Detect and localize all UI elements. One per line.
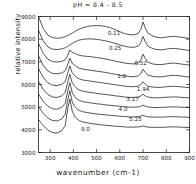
curve-label: 0.52	[134, 60, 146, 66]
curve-label: 5.25	[129, 116, 142, 122]
y-tick-label: 6000	[21, 82, 36, 88]
x-tick-label: 800	[161, 155, 172, 161]
y-tick-label: 5000	[21, 104, 36, 110]
spectrum-curve	[39, 56, 190, 77]
curve-label: 0.25	[109, 45, 122, 51]
spectrum-curve	[39, 74, 190, 98]
y-tick-label: 8000	[21, 36, 36, 42]
curve-label: 3.17	[126, 96, 139, 102]
x-tick-label: 500	[91, 155, 102, 161]
x-tick-label: 600	[114, 155, 125, 161]
x-tick-label: 700	[138, 155, 149, 161]
curve-label: 9.0	[81, 126, 90, 132]
x-tick-label: 400	[68, 155, 79, 161]
curve-label: 0.11	[108, 30, 121, 36]
y-tick-label: 7000	[21, 59, 36, 65]
spectrum-curve	[39, 66, 190, 88]
spectra-figure: pH = 8.4 - 8.5 relative intensity wavenu…	[0, 0, 196, 184]
curve-label: 4.0	[119, 106, 128, 112]
y-tick-label: 9000	[21, 14, 36, 20]
y-tick-label: 3000	[21, 150, 36, 156]
curve-label: 1.94	[137, 86, 150, 92]
y-tick-label: 4000	[21, 127, 36, 133]
plot-area: 3000400050006000700080009000300400500600…	[0, 0, 196, 184]
x-tick-label: 300	[45, 155, 56, 161]
curve-label: 1.0	[117, 73, 126, 79]
x-tick-label: 900	[184, 155, 195, 161]
